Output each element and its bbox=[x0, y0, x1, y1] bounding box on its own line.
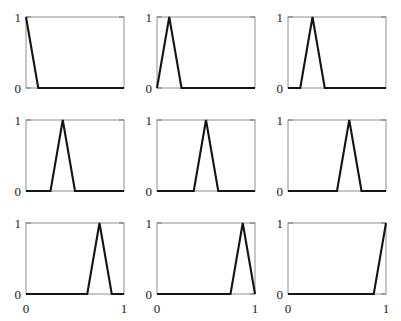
axis-frame bbox=[26, 17, 124, 88]
y-tick-label-1: 1 bbox=[15, 216, 22, 231]
plot-area-8: 0101 bbox=[135, 215, 263, 321]
axis-frame bbox=[288, 120, 386, 191]
plot-area-5: 01 bbox=[135, 112, 263, 219]
plot-area-4: 01 bbox=[4, 112, 132, 219]
plot-area-1: 01 bbox=[4, 9, 132, 116]
plot-area-6: 01 bbox=[266, 112, 394, 219]
x-tick-label-0: 0 bbox=[23, 301, 30, 316]
y-tick-label-0: 0 bbox=[277, 287, 284, 302]
x-tick-label-0: 0 bbox=[154, 301, 161, 316]
chart-panel-7: 0101 bbox=[4, 215, 132, 321]
chart-panel-6: 01 bbox=[266, 112, 394, 219]
y-tick-label-0: 0 bbox=[146, 287, 153, 302]
plot-area-2: 01 bbox=[135, 9, 263, 116]
y-tick-label-1: 1 bbox=[277, 216, 284, 231]
y-tick-label-0: 0 bbox=[15, 184, 22, 199]
y-tick-label-0: 0 bbox=[277, 184, 284, 199]
figure-panel-grid: 010101010101010101010101 bbox=[0, 0, 401, 321]
plot-area-7: 0101 bbox=[4, 215, 132, 321]
axis-frame bbox=[288, 223, 386, 294]
x-tick-label-1: 1 bbox=[383, 301, 390, 316]
plot-area-9: 0101 bbox=[266, 215, 394, 321]
y-tick-label-1: 1 bbox=[15, 113, 22, 128]
chart-panel-4: 01 bbox=[4, 112, 132, 219]
y-tick-label-1: 1 bbox=[146, 113, 153, 128]
y-tick-label-0: 0 bbox=[15, 81, 22, 96]
chart-panel-9: 0101 bbox=[266, 215, 394, 321]
axis-frame bbox=[157, 120, 255, 191]
x-tick-label-1: 1 bbox=[121, 301, 128, 316]
chart-panel-8: 0101 bbox=[135, 215, 263, 321]
chart-panel-3: 01 bbox=[266, 9, 394, 116]
y-tick-label-1: 1 bbox=[146, 10, 153, 25]
y-tick-label-1: 1 bbox=[277, 10, 284, 25]
y-tick-label-0: 0 bbox=[277, 81, 284, 96]
plot-area-3: 01 bbox=[266, 9, 394, 116]
chart-panel-1: 01 bbox=[4, 9, 132, 116]
x-tick-label-1: 1 bbox=[252, 301, 259, 316]
chart-panel-2: 01 bbox=[135, 9, 263, 116]
y-tick-label-0: 0 bbox=[146, 184, 153, 199]
axis-frame bbox=[26, 120, 124, 191]
chart-panel-5: 01 bbox=[135, 112, 263, 219]
x-tick-label-0: 0 bbox=[285, 301, 292, 316]
y-tick-label-1: 1 bbox=[15, 10, 22, 25]
y-tick-label-1: 1 bbox=[277, 113, 284, 128]
y-tick-label-0: 0 bbox=[146, 81, 153, 96]
y-tick-label-0: 0 bbox=[15, 287, 22, 302]
y-tick-label-1: 1 bbox=[146, 216, 153, 231]
